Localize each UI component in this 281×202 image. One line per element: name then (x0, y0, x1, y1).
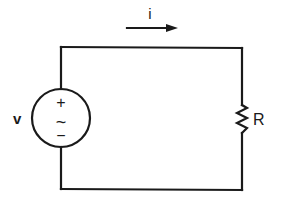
ac-voltage-source: + ~ − (32, 89, 90, 147)
current-arrow-head-icon (166, 24, 178, 32)
source-minus-sign: − (56, 127, 65, 144)
resistor-zigzag (237, 105, 247, 133)
wire-bottom (61, 189, 242, 190)
wire-top (61, 47, 242, 48)
resistor-label: R (253, 111, 265, 128)
circuit-diagram: + ~ − v R i (0, 0, 281, 202)
current-arrow (127, 24, 178, 32)
resistor (237, 105, 247, 133)
circuit-wires (61, 47, 242, 190)
source-plus-sign: + (56, 94, 65, 111)
current-label: i (148, 5, 151, 22)
source-label: v (13, 110, 22, 127)
